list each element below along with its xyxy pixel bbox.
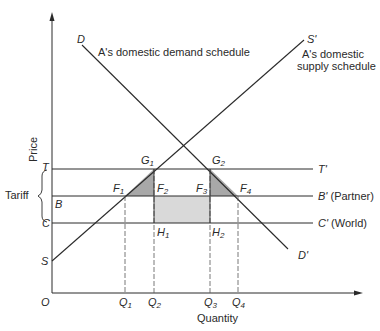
f3-base: F: [196, 182, 203, 194]
q1-base: Q: [119, 296, 128, 308]
point-F4: F4: [240, 183, 251, 196]
x-axis-arrow-icon: [354, 291, 363, 296]
partner-note: (Partner): [331, 190, 374, 202]
point-G2: G2: [212, 155, 225, 168]
demand-description: A's domestic demand schedule: [98, 47, 250, 58]
g2-base: G: [212, 154, 221, 166]
q3-base: Q: [204, 296, 213, 308]
f4-base: F: [240, 182, 247, 194]
b-prime-letter: B': [318, 190, 327, 202]
supply-description-line1: A's domestic: [302, 49, 364, 60]
f4-sub: 4: [247, 187, 251, 196]
h1-base: H: [157, 226, 165, 238]
price-label-T-prime: T': [318, 164, 327, 175]
h1-sub: 1: [165, 231, 169, 240]
point-H1: H1: [157, 227, 169, 240]
y-axis-label: Price: [28, 137, 39, 162]
quantity-Q2: Q2: [148, 297, 161, 310]
demand-end-label: D': [298, 250, 308, 261]
f3-sub: 3: [203, 187, 207, 196]
supply-end-label: S': [307, 34, 316, 45]
x-axis-label: Quantity: [197, 313, 238, 324]
quantity-Q4: Q4: [232, 297, 245, 310]
shaded-triangle-right: [210, 169, 238, 196]
price-label-C: C: [42, 218, 50, 229]
quantity-Q1: Q1: [119, 297, 132, 310]
point-H2: H2: [212, 227, 224, 240]
h2-base: H: [212, 226, 220, 238]
point-G1: G1: [141, 155, 154, 168]
g2-sub: 2: [221, 159, 225, 168]
q4-base: Q: [232, 296, 241, 308]
q2-base: Q: [148, 296, 157, 308]
y-axis-arrow-icon: [50, 12, 55, 21]
origin-label: O: [41, 297, 50, 308]
shaded-triangle-left: [125, 169, 154, 196]
customs-union-diagram: Price Quantity O D A's domestic demand s…: [0, 0, 380, 331]
q3-sub: 3: [213, 301, 217, 310]
shaded-rectangle: [154, 196, 210, 223]
q1-sub: 1: [128, 301, 132, 310]
price-label-C-prime: C' (World): [318, 218, 367, 229]
world-note: (World): [331, 217, 367, 229]
c-prime-letter: C': [318, 217, 328, 229]
price-label-T: T: [42, 162, 49, 173]
price-label-B-prime: B' (Partner): [318, 191, 374, 202]
point-F2: F2: [157, 183, 168, 196]
f1-sub: 1: [120, 187, 124, 196]
f2-sub: 2: [164, 187, 168, 196]
f2-base: F: [157, 182, 164, 194]
tariff-label: Tariff: [5, 190, 29, 201]
point-F1: F1: [113, 183, 124, 196]
quantity-Q3: Q3: [204, 297, 217, 310]
point-F3: F3: [196, 183, 207, 196]
price-label-B: B: [55, 199, 62, 210]
tariff-brace: [38, 170, 47, 222]
q4-sub: 4: [241, 301, 245, 310]
g1-base: G: [141, 154, 150, 166]
g1-sub: 1: [150, 159, 154, 168]
q2-sub: 2: [157, 301, 161, 310]
demand-start-label: D: [77, 34, 85, 45]
supply-start-label: S: [41, 256, 48, 267]
f1-base: F: [113, 182, 120, 194]
h2-sub: 2: [220, 231, 224, 240]
supply-description-line2: supply schedule: [297, 61, 376, 72]
